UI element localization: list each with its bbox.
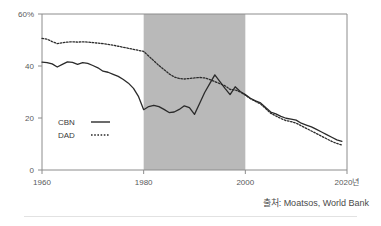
x-axis-tick-label: 2020년 (335, 177, 360, 187)
y-axis-tick-label: 60% (18, 10, 34, 19)
x-axis-tick-label: 1980 (135, 178, 153, 187)
source-caption: 출처: Moatsos, World Bank (263, 196, 369, 209)
poverty-rate-chart: 60%402001960198020002020년CBNDAD 출처: Moat… (0, 0, 381, 226)
y-axis-tick-label: 0 (30, 166, 35, 175)
legend-label-cbn: CBN (58, 118, 75, 127)
legend-label-dad: DAD (58, 131, 75, 140)
x-axis-tick-label: 1960 (33, 178, 51, 187)
y-axis-tick-label: 20 (25, 114, 34, 123)
chart-svg: 60%402001960198020002020년CBNDAD (0, 0, 381, 226)
x-axis-tick-label: 2000 (236, 178, 254, 187)
shaded-period-region (144, 14, 246, 170)
y-axis-tick-label: 40 (25, 62, 34, 71)
footer-divider (24, 216, 357, 217)
